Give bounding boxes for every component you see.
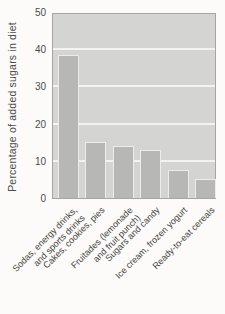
y-tick-label-0: 0 — [24, 193, 46, 205]
y-tick-label-10: 10 — [24, 156, 46, 168]
bar-3 — [113, 146, 134, 198]
y-axis-label: Percentage of added sugars in diet — [6, 22, 18, 192]
bar-2 — [85, 142, 106, 198]
y-tick-label-30: 30 — [24, 81, 46, 93]
gridline-40 — [53, 48, 215, 50]
bar-chart-figure: Percentage of added sugars in diet 01020… — [0, 0, 225, 314]
y-tick-label-50: 50 — [24, 7, 46, 19]
bar-4 — [140, 150, 161, 198]
bar-5 — [168, 170, 189, 198]
bar-6 — [195, 179, 216, 198]
y-tick-label-40: 40 — [24, 44, 46, 56]
plot-area — [52, 13, 216, 199]
y-tick-label-20: 20 — [24, 119, 46, 131]
bar-1 — [58, 55, 79, 198]
